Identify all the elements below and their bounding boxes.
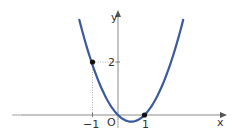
tick-label-1: 1 — [142, 118, 149, 131]
parabola-curve — [79, 20, 183, 122]
point-1-0 — [142, 112, 147, 117]
chart-canvas: y x 2 −1 O 1 — [0, 0, 240, 137]
origin-label: O — [107, 116, 116, 129]
point-minus1-2 — [90, 59, 95, 64]
tick-label-minus-1: −1 — [83, 118, 99, 131]
y-axis-label: y — [111, 11, 118, 24]
x-axis-label: x — [217, 116, 224, 129]
tick-label-2: 2 — [108, 56, 115, 69]
